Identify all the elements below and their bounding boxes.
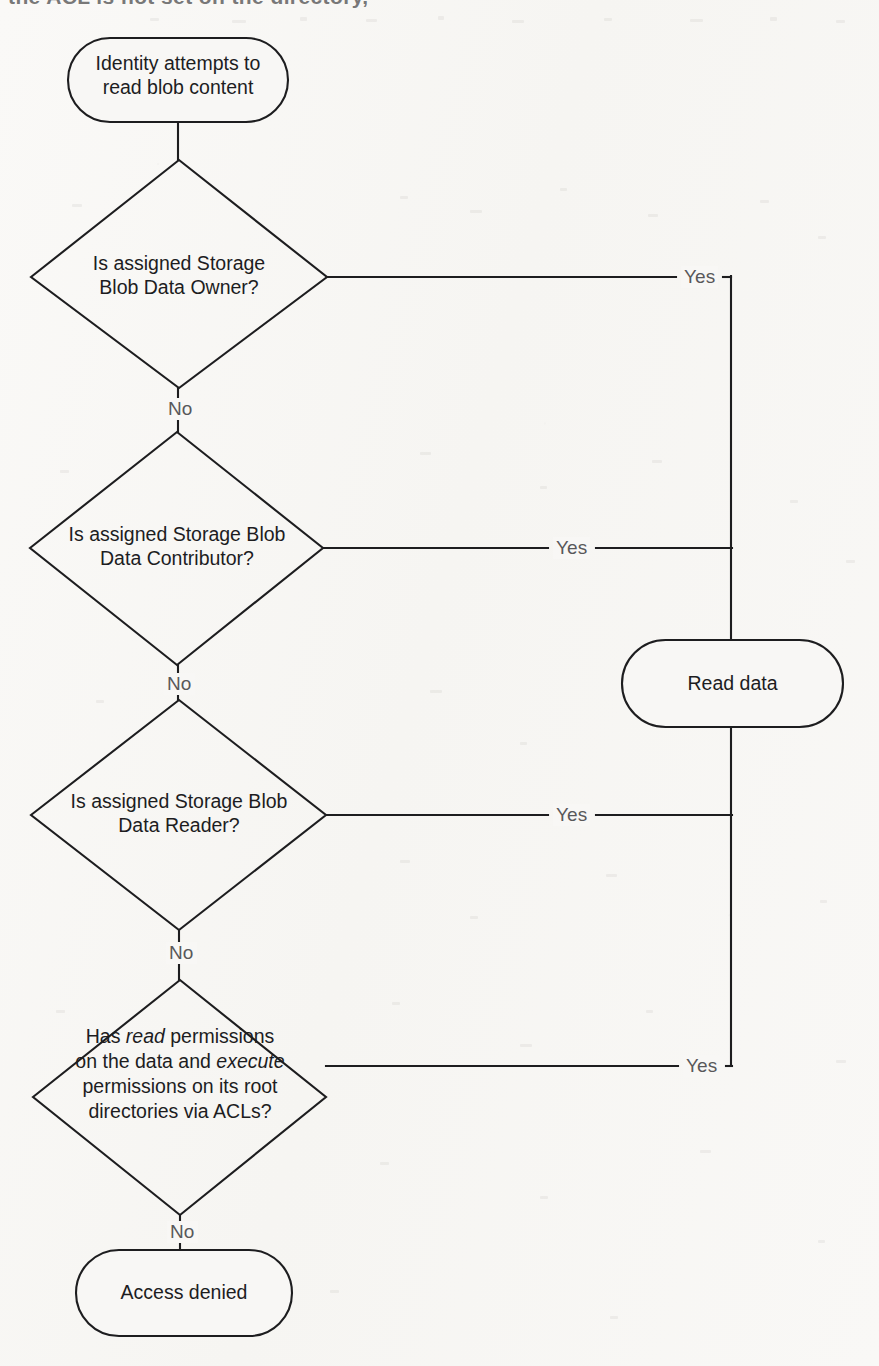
terminator-start-shape bbox=[68, 38, 288, 122]
decision-reader-shape bbox=[31, 700, 326, 930]
edge-label-contributor-yes: Yes bbox=[553, 537, 590, 559]
edge-label-acl-yes: Yes bbox=[683, 1055, 720, 1077]
edge-label-contributor-no: No bbox=[164, 673, 195, 695]
decision-acl-shape bbox=[33, 980, 326, 1215]
edge-label-reader-no: No bbox=[166, 942, 197, 964]
edge-label-owner-yes: Yes bbox=[681, 266, 718, 288]
decision-owner-shape bbox=[31, 160, 327, 388]
flowchart-canvas bbox=[0, 0, 879, 1366]
decision-contributor-shape bbox=[30, 432, 323, 665]
edge-label-reader-yes: Yes bbox=[553, 804, 590, 826]
edge-label-acl-no: No bbox=[167, 1221, 198, 1243]
terminator-read-data-shape bbox=[622, 640, 843, 727]
terminator-access-denied-shape bbox=[76, 1250, 292, 1336]
edge-label-owner-no: No bbox=[165, 398, 196, 420]
